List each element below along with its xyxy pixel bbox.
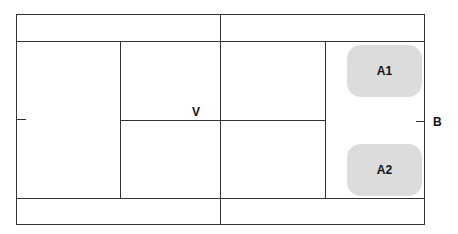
left-tick-mark	[16, 119, 26, 120]
center-label-v: V	[192, 106, 200, 118]
frame-right-edge	[424, 14, 425, 225]
block-a1: A1	[347, 45, 422, 97]
block-a2-label: A2	[377, 163, 392, 177]
right-tick-mark	[416, 121, 424, 122]
middle-horizontal-divider	[120, 120, 325, 121]
right-inner-vertical	[325, 41, 326, 198]
block-a2: A2	[347, 144, 422, 196]
right-label-b: B	[433, 116, 442, 128]
block-a1-label: A1	[377, 64, 392, 78]
